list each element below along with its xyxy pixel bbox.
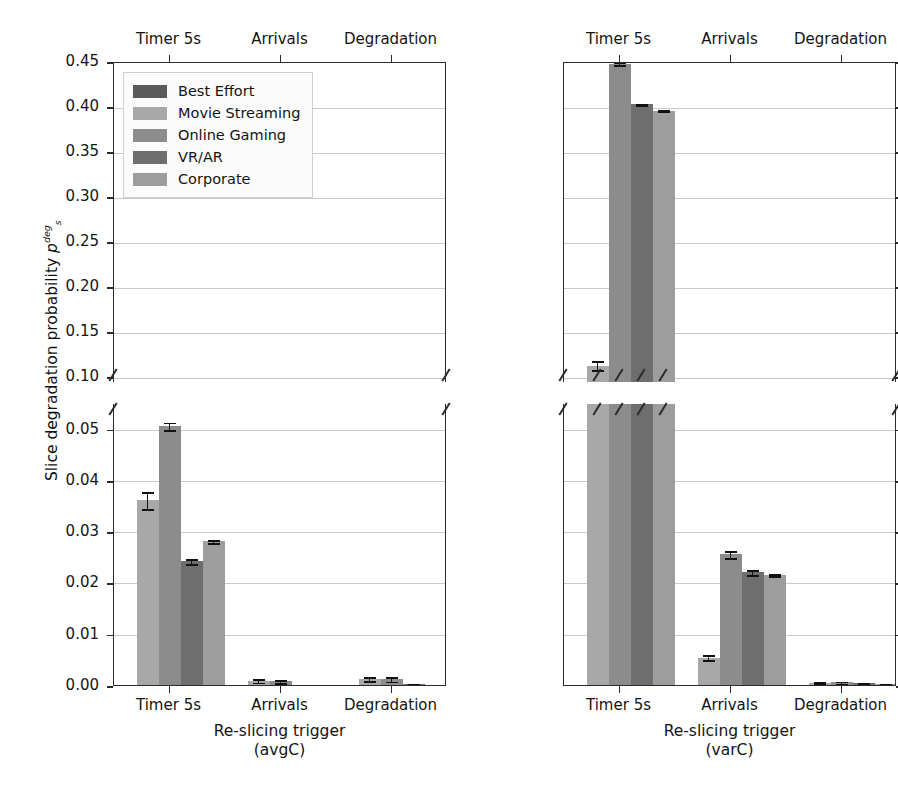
y-tick-label-lower: 0.01 bbox=[31, 625, 99, 643]
error-bar-cap-avgC-0-2-0 bbox=[164, 423, 176, 425]
error-bar-cap-avgC-0-3-1 bbox=[186, 564, 198, 566]
error-bar-cap-upper-varC-0-3-1 bbox=[636, 105, 648, 107]
gridline-upper bbox=[114, 378, 445, 379]
legend-item-4: Corporate bbox=[133, 168, 300, 190]
bar-upper-varC-0-2 bbox=[609, 64, 631, 382]
gridline-upper bbox=[114, 243, 445, 244]
error-bar-cap-avgC-1-2-0 bbox=[275, 680, 287, 682]
y-tick-label-lower: 0.00 bbox=[31, 676, 99, 694]
legend-label-1: Movie Streaming bbox=[178, 105, 300, 121]
x-tickmark-top bbox=[730, 55, 732, 62]
error-bar-cap-avgC-2-1-0 bbox=[364, 677, 376, 679]
error-bar-cap-varC-1-4-1 bbox=[769, 576, 781, 578]
bar-varC-1-4 bbox=[764, 575, 786, 685]
error-bar-cap-varC-1-1-0 bbox=[703, 655, 715, 657]
legend-label-4: Corporate bbox=[178, 171, 251, 187]
bar-varC-0-4 bbox=[653, 404, 675, 685]
legend-item-0: Best Effort bbox=[133, 80, 300, 102]
bar-varC-1-2 bbox=[720, 554, 742, 685]
y-tick-label-lower: 0.03 bbox=[31, 522, 99, 540]
error-bar-cap-avgC-1-1-1 bbox=[253, 683, 265, 685]
x-axis-title-avgC: Re-slicing trigger(avgC) bbox=[113, 722, 446, 760]
error-bar-cap-avgC-0-4-0 bbox=[208, 540, 220, 542]
x-tickmark-top bbox=[280, 55, 282, 62]
error-bar-cap-avgC-1-1-0 bbox=[253, 679, 265, 681]
error-bar-cap-upper-varC-0-2-0 bbox=[614, 63, 626, 64]
error-bar-cap-upper-varC-0-2-1 bbox=[614, 65, 626, 67]
x-tickmark-bottom bbox=[730, 686, 732, 693]
y-tickmark-upper bbox=[107, 62, 113, 64]
bar-avgC-0-3 bbox=[181, 561, 203, 685]
bar-upper-varC-0-3 bbox=[631, 104, 653, 382]
error-bar-cap-varC-1-3-0 bbox=[747, 570, 759, 572]
x-tick-label-top-degradation: Degradation bbox=[761, 30, 898, 48]
error-bar-cap-varC-1-1-1 bbox=[703, 660, 715, 662]
plot-axes-lower-avgC bbox=[113, 404, 446, 686]
plot-area-upper-varC bbox=[564, 63, 895, 382]
gridline-upper bbox=[114, 288, 445, 289]
y-tickmark-upper bbox=[107, 242, 113, 244]
error-bar-cap-avgC-0-1-0 bbox=[142, 492, 154, 494]
x-tickmark-bottom bbox=[619, 686, 621, 693]
y-tickmark-lower bbox=[107, 635, 113, 637]
bar-varC-0-2 bbox=[609, 404, 631, 685]
legend-item-3: VR/AR bbox=[133, 146, 300, 168]
y-tick-label-upper: 0.25 bbox=[31, 232, 99, 250]
plot-axes-upper-varC bbox=[563, 62, 896, 382]
y-tick-label-upper: 0.10 bbox=[31, 367, 99, 385]
x-tickmark-top bbox=[841, 55, 843, 62]
y-tickmark-lower bbox=[107, 430, 113, 432]
x-axis-title-line2: (varC) bbox=[563, 741, 896, 760]
y-tickmark-upper bbox=[107, 197, 113, 199]
y-tick-label-lower: 0.04 bbox=[31, 471, 99, 489]
y-tickmark-upper bbox=[107, 152, 113, 154]
x-tickmark-bottom bbox=[391, 686, 393, 693]
y-tickmark-upper bbox=[107, 332, 113, 334]
error-bar-cap-upper-varC-0-4-1 bbox=[658, 112, 670, 114]
y-tickmark-upper bbox=[107, 287, 113, 289]
legend-swatch-3 bbox=[133, 151, 167, 164]
bar-varC-1-3 bbox=[742, 572, 764, 685]
error-bar-cap-varC-2-3-1 bbox=[858, 684, 870, 685]
y-tickmark-lower bbox=[107, 481, 113, 483]
legend-swatch-4 bbox=[133, 173, 167, 186]
y-tick-label-upper: 0.45 bbox=[31, 52, 99, 70]
x-tickmark-bottom bbox=[169, 686, 171, 693]
legend-swatch-0 bbox=[133, 85, 167, 98]
y-tick-label-upper: 0.35 bbox=[31, 142, 99, 160]
figure-root: Slice degradation probability pdegs 0.10… bbox=[0, 0, 898, 802]
bar-varC-0-1 bbox=[587, 404, 609, 685]
legend-swatch-1 bbox=[133, 107, 167, 120]
error-bar-cap-avgC-0-2-1 bbox=[164, 430, 176, 432]
y-tick-label-lower: 0.02 bbox=[31, 573, 99, 591]
x-axis-title-line1: Re-slicing trigger bbox=[563, 722, 896, 741]
legend-item-2: Online Gaming bbox=[133, 124, 300, 146]
error-bar-cap-avgC-2-2-1 bbox=[386, 682, 398, 684]
x-tick-label-bottom-degradation: Degradation bbox=[311, 696, 471, 714]
y-axis-label-sub: s bbox=[52, 220, 63, 225]
error-bar-cap-varC-1-2-1 bbox=[725, 558, 737, 560]
legend-item-1: Movie Streaming bbox=[133, 102, 300, 124]
gridline-upper bbox=[114, 333, 445, 334]
error-bar-cap-avgC-0-1-1 bbox=[142, 509, 154, 511]
error-bar-cap-avgC-2-1-1 bbox=[364, 681, 376, 683]
bar-avgC-0-2 bbox=[159, 426, 181, 685]
error-bar-cap-varC-1-2-0 bbox=[725, 551, 737, 553]
x-tick-label-top-degradation: Degradation bbox=[311, 30, 471, 48]
x-tickmark-top bbox=[619, 55, 621, 62]
x-tickmark-top bbox=[169, 55, 171, 62]
bar-varC-0-3 bbox=[631, 404, 653, 685]
y-tickmark-lower bbox=[107, 532, 113, 534]
legend: Best EffortMovie StreamingOnline GamingV… bbox=[123, 72, 313, 198]
x-tickmark-top bbox=[391, 55, 393, 62]
y-tick-label-upper: 0.20 bbox=[31, 277, 99, 295]
error-bar-cap-avgC-1-2-1 bbox=[275, 683, 287, 685]
y-tick-label-upper: 0.30 bbox=[31, 187, 99, 205]
error-bar-cap-avgC-2-2-0 bbox=[386, 677, 398, 679]
error-bar-cap-avgC-0-3-0 bbox=[186, 559, 198, 561]
y-tick-label-upper: 0.15 bbox=[31, 322, 99, 340]
y-tick-label-upper: 0.40 bbox=[31, 97, 99, 115]
y-tick-label-lower: 0.05 bbox=[31, 420, 99, 438]
x-tick-label-bottom-degradation: Degradation bbox=[761, 696, 898, 714]
error-bar-cap-avgC-0-4-1 bbox=[208, 543, 220, 545]
